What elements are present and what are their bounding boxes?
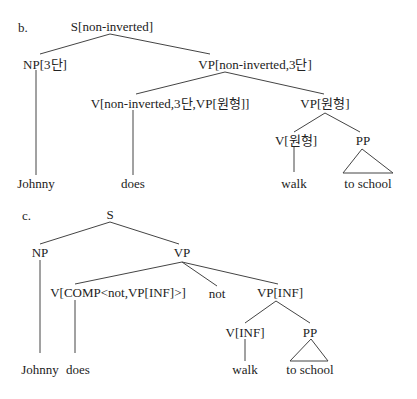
tree-c-root-node: S	[106, 208, 113, 222]
tree-c-marker: c.	[22, 209, 31, 223]
tree-c-v2-node: V[INF]	[226, 326, 265, 340]
tree-c-pp-node: PP	[303, 326, 317, 340]
tree-c-word-to-school: to school	[286, 363, 333, 377]
tree-b-pp-node: PP	[356, 134, 370, 148]
tree-b-vp2-node: VP[원형]	[300, 97, 349, 111]
tree-c-word-does: does	[66, 363, 90, 377]
tree-b-word-johnny: Johnny	[17, 177, 55, 191]
tree-b-word-walk: walk	[281, 177, 306, 191]
tree-b-word-does: does	[121, 177, 145, 191]
tree-c-word-walk: walk	[232, 363, 257, 377]
tree-b-word-to-school: to school	[344, 177, 391, 191]
tree-c-word-johnny: Johnny	[21, 363, 59, 377]
tree-b-root-node: S[non-inverted]	[71, 20, 153, 34]
tree-b-marker: b.	[18, 21, 28, 35]
tree-c-v-node: V[COMP<not,VP[INF]>]	[50, 286, 186, 300]
tree-c-vp-node: VP	[174, 246, 191, 260]
tree-c-vp2-node: VP[INF]	[257, 286, 303, 300]
tree-b-np-node: NP[3단]	[23, 58, 67, 72]
tree-c-not-node: not	[209, 287, 226, 301]
tree-b-vp-node: VP[non-inverted,3단]	[198, 58, 311, 72]
tree-c-np-node: NP	[32, 246, 49, 260]
tree-b-v2-node: V[원형]	[275, 134, 317, 148]
tree-b-v-node: V[non-inverted,3단,VP[원형]]	[91, 97, 250, 111]
